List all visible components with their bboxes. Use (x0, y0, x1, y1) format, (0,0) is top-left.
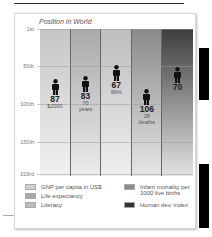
person-icon (112, 65, 121, 81)
marker-gnp: 87 $2000 (40, 79, 70, 109)
legend-label: Infant mortality per 1000 live births (140, 184, 194, 196)
right-bracket-bottom (199, 164, 209, 228)
rank-value: 70 (162, 83, 192, 91)
person-icon (51, 79, 60, 95)
person-icon (142, 89, 151, 105)
marker-literacy: 67 96% (101, 65, 131, 95)
column-literacy (101, 29, 132, 176)
y-label-1st: 1st (16, 26, 34, 32)
legend-item-infant-mortality: Infant mortality per 1000 live births (124, 184, 194, 196)
legend-label: Human dev. index (140, 202, 188, 208)
legend-swatch (25, 202, 36, 208)
metric-unit: years (71, 106, 101, 112)
legend-swatch (124, 184, 135, 190)
plot-area: 1st 50th 100th 150th 193rd 87 $2000 83 7… (40, 29, 193, 176)
rank-value: 87 (40, 95, 70, 103)
chart-card: Position in World 1st 50th 100th 150th 1… (14, 13, 196, 229)
y-label-100th: 100th (16, 101, 34, 107)
marker-life-expectancy: 83 70 years (71, 76, 101, 112)
right-bracket-top (199, 48, 209, 100)
column-human-dev-index (162, 29, 193, 176)
person-icon (173, 67, 182, 83)
rank-value: 67 (101, 81, 131, 89)
y-label-150th: 150th (16, 139, 34, 145)
rank-value: 106 (132, 105, 162, 113)
gridline-1st (37, 29, 193, 30)
marker-human-dev-index: 70 (162, 67, 192, 91)
gridline-193rd (37, 174, 193, 175)
rank-value: 83 (71, 92, 101, 100)
legend-item-life-expectancy: Life expectancy (25, 193, 83, 199)
legend-label: Literacy (41, 202, 62, 208)
metric-unit: deaths (132, 119, 162, 125)
legend-swatch (25, 193, 36, 199)
gridline-150th (37, 142, 193, 143)
y-label-193rd: 193rd (16, 171, 34, 177)
top-rule (14, 3, 184, 4)
legend-swatch (25, 184, 36, 190)
legend-item-literacy: Literacy (25, 202, 62, 208)
legend-swatch (124, 202, 135, 208)
legend-item-human-dev-index: Human dev. index (124, 202, 188, 208)
legend-label: GNP per capita in US$ (41, 184, 102, 190)
legend-label: Life expectancy (41, 193, 83, 199)
marker-infant-mortality: 106 28 deaths (132, 89, 162, 125)
metric-value: $2000 (40, 103, 70, 109)
legend-item-gnp: GNP per capita in US$ (25, 184, 102, 190)
y-label-50th: 50th (16, 63, 34, 69)
metric-value: 96% (101, 89, 131, 95)
person-icon (81, 76, 90, 92)
chart-title: Position in World (39, 18, 92, 25)
